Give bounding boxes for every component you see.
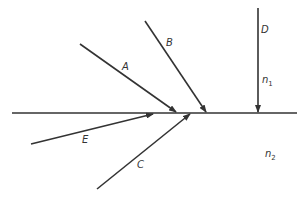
ray-label-b: B — [166, 37, 173, 48]
medium-label-n1: n1 — [262, 74, 273, 88]
ray-label-d: D — [261, 24, 269, 35]
ray-label-c: C — [137, 159, 144, 170]
ray-c — [97, 114, 190, 189]
refraction-diagram: ABDECn1n2 — [0, 0, 304, 199]
ray-e — [31, 114, 153, 144]
ray-label-a: A — [121, 61, 129, 72]
medium-label-n2: n2 — [265, 148, 276, 162]
ray-a — [80, 44, 176, 112]
ray-b — [145, 21, 206, 112]
ray-label-e: E — [82, 134, 89, 145]
